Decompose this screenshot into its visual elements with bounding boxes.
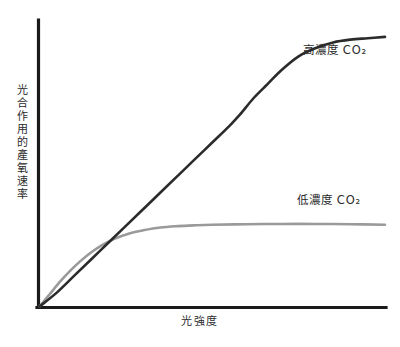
x-axis-label: 光強度 bbox=[0, 316, 400, 328]
photosynthesis-light-response-chart: 光合作用的產氧速率 光強度 高濃度 CO₂ 低濃度 CO₂ bbox=[0, 0, 400, 347]
series-line-low-co2 bbox=[40, 224, 386, 307]
y-axis-label: 光合作用的產氧速率 bbox=[11, 84, 27, 201]
series-label-high-co2: 高濃度 CO₂ bbox=[303, 41, 367, 57]
series-label-low-co2: 低濃度 CO₂ bbox=[297, 191, 361, 207]
series-line-high-co2 bbox=[40, 37, 386, 307]
